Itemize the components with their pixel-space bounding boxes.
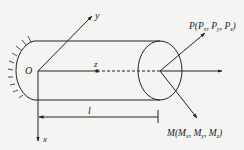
beam-diagram: O y z x l P(Px, Py, Pz) M(Mx, My, Mz)	[0, 0, 244, 150]
coordinate-axes	[38, 16, 222, 141]
y-axis	[38, 16, 92, 71]
force-label: P(Px, Py, Pz)	[188, 21, 236, 32]
z-axis-label: z	[93, 59, 98, 69]
z-axis-tick	[96, 70, 99, 73]
length-dimension	[39, 110, 158, 123]
length-label: l	[88, 105, 91, 116]
load-vectors	[160, 33, 205, 118]
moment-vector	[160, 71, 197, 118]
origin-label: O	[25, 65, 32, 76]
y-axis-label: y	[94, 10, 100, 21]
x-axis-label: x	[42, 134, 47, 144]
force-vector	[160, 33, 205, 71]
moment-label: M(Mx, My, Mz)	[166, 128, 222, 139]
